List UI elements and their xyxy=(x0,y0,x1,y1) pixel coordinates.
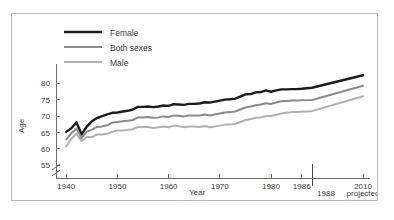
x-tick-label: 1960 xyxy=(160,182,178,191)
y-axis-title: Age xyxy=(17,118,26,133)
life-expectancy-line-chart: 556065707580 194019501960197019801986201… xyxy=(12,14,377,200)
y-tick-label: 80 xyxy=(41,79,50,88)
annotation-1988-label: 1988 xyxy=(317,189,335,198)
y-tick-label: 70 xyxy=(41,112,50,121)
x-axis-title: Year xyxy=(189,188,206,197)
x-tick-label: 1940 xyxy=(57,182,75,191)
legend-label-both-sexes: Both sexes xyxy=(110,43,152,53)
y-tick-label: 75 xyxy=(41,96,50,105)
x-tick-label: 1986 xyxy=(293,182,311,191)
x-tick-label: 1970 xyxy=(211,182,229,191)
x-tick-label: 1980 xyxy=(262,182,280,191)
series-lines xyxy=(66,75,363,146)
y-tick-label: 60 xyxy=(41,145,50,154)
y-tick-label: 55 xyxy=(41,161,50,170)
chart-figure: 556065707580 194019501960197019801986201… xyxy=(0,0,394,220)
y-axis-ticks: 556065707580 xyxy=(41,79,60,170)
x-tick-label: 1950 xyxy=(109,182,127,191)
series-line-male xyxy=(66,96,363,146)
chart-legend: FemaleBoth sexesMale xyxy=(64,28,152,68)
chart-frame: 556065707580 194019501960197019801986201… xyxy=(11,13,378,201)
annotation-projected-label: projected xyxy=(347,189,377,198)
y-tick-label: 65 xyxy=(41,129,50,138)
legend-label-female: Female xyxy=(110,28,139,38)
legend-label-male: Male xyxy=(110,58,129,68)
